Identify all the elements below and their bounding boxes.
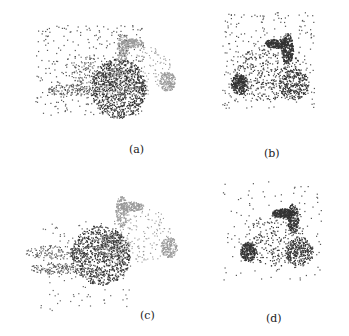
- point-cloud-b: [200, 0, 349, 170]
- point-cloud-a: [0, 0, 200, 170]
- panel-label-c: (c): [140, 309, 155, 322]
- panel-label-d: (d): [266, 312, 282, 325]
- panel-label-b: (b): [264, 147, 280, 160]
- panel-a: (a): [0, 0, 200, 170]
- panel-b: (b): [200, 0, 349, 170]
- panel-label-a: (a): [129, 143, 144, 156]
- panel-d: (d): [200, 170, 349, 336]
- point-cloud-c: [0, 170, 200, 336]
- panel-c: (c): [0, 170, 200, 336]
